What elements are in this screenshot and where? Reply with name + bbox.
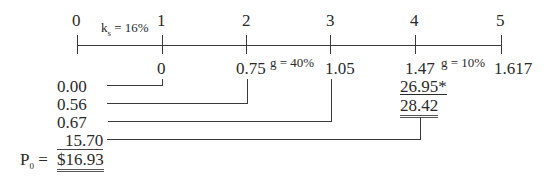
period-label-3: 3 bbox=[326, 12, 335, 29]
period-label-0: 0 bbox=[72, 12, 81, 29]
tick-1 bbox=[162, 35, 163, 54]
dividend-4: 1.47 bbox=[405, 60, 435, 77]
tick-2 bbox=[246, 35, 247, 54]
growth-rate-high-label: g = 40% bbox=[270, 56, 314, 69]
present-value-1: 0.00 bbox=[57, 78, 87, 95]
connector-3-h bbox=[108, 121, 332, 122]
horizon-value: 26.95* bbox=[400, 78, 447, 95]
connector-3-v bbox=[331, 79, 332, 122]
growth-rate-low-label: g = 10% bbox=[441, 56, 485, 69]
required-return-label: ks = 16% bbox=[101, 21, 149, 38]
connector-1-h bbox=[107, 85, 163, 86]
tick-5 bbox=[501, 35, 502, 54]
present-value-3: 0.67 bbox=[57, 114, 87, 131]
dividend-5: 1.617 bbox=[494, 60, 532, 77]
connector-4-h bbox=[107, 139, 420, 140]
tick-0 bbox=[77, 35, 78, 54]
connector-2-h bbox=[107, 103, 247, 104]
timeline-axis bbox=[77, 45, 502, 46]
period-label-2: 2 bbox=[242, 12, 251, 29]
dividend-2: 0.75 bbox=[236, 60, 266, 77]
connector-1-v bbox=[162, 79, 163, 86]
period-label-4: 4 bbox=[410, 12, 419, 29]
present-value-4: 15.70 bbox=[57, 132, 103, 150]
connector-4-v bbox=[420, 117, 421, 140]
dividend-3: 1.05 bbox=[325, 60, 355, 77]
tick-4 bbox=[415, 35, 416, 54]
period-label-1: 1 bbox=[157, 12, 166, 29]
price-label: P0 = bbox=[20, 151, 48, 171]
present-value-2: 0.56 bbox=[57, 96, 87, 113]
connector-2-v bbox=[247, 79, 248, 104]
tick-3 bbox=[330, 35, 331, 54]
period-label-5: 5 bbox=[496, 12, 505, 29]
price-value: $16.93 bbox=[57, 151, 104, 168]
dividend-1: 0 bbox=[157, 60, 166, 77]
terminal-total: 28.42 bbox=[400, 97, 438, 114]
